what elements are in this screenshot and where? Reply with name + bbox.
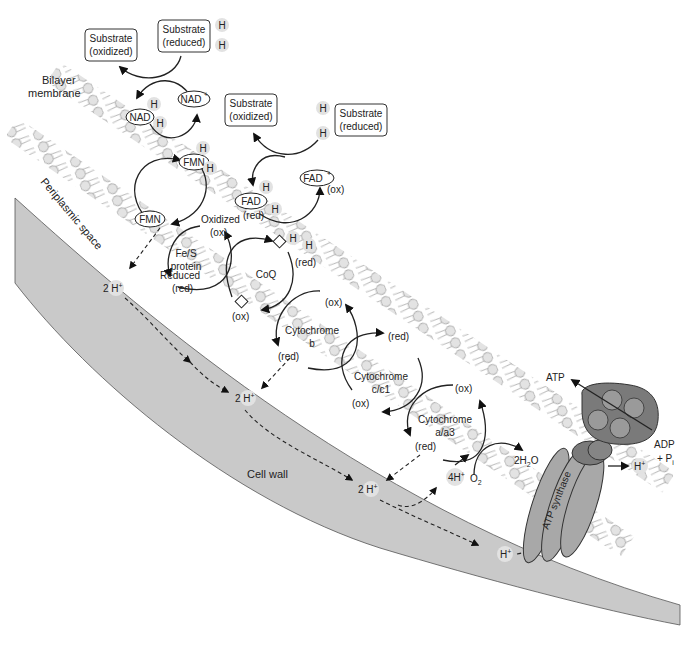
cytb-red-label: (red) <box>278 351 299 362</box>
cyta-red-label: (red) <box>415 441 436 452</box>
cytc-ox-label: (ox) <box>352 398 369 409</box>
svg-text:Substrate: Substrate <box>163 24 206 35</box>
coq-ox-label: (ox) <box>232 311 249 322</box>
hydrogen-fad-sub-2: H <box>316 126 330 140</box>
proton-h-single: H+ <box>497 546 513 562</box>
fad-red-label: (red) <box>243 210 264 221</box>
fad-ox-label: (ox) <box>327 184 344 195</box>
svg-text:Substrate: Substrate <box>90 33 133 44</box>
cyta-ox-label: (ox) <box>455 383 472 394</box>
hydrogen-coq-1: H <box>286 231 300 245</box>
substrate-box-nad-oxidized: Substrate (oxidized) <box>85 29 137 61</box>
arrow-fad-substrate-to-oxidized <box>254 134 318 154</box>
svg-text:FAD: FAD <box>241 196 260 207</box>
svg-text:H: H <box>218 20 225 31</box>
substrate-box-nad-reduced: Substrate (reduced) <box>158 20 210 52</box>
coq-label: CoQ <box>256 269 277 280</box>
substrate-box-fad-oxidized: Substrate (oxidized) <box>225 94 277 126</box>
hydrogen-fad-1: H <box>259 180 273 194</box>
atp-label: ATP <box>546 372 565 383</box>
svg-text:H: H <box>156 118 163 129</box>
fes-oxidized-label: Oxidized <box>201 214 240 225</box>
adp-label: ADP <box>654 439 675 450</box>
svg-text:(reduced): (reduced) <box>340 121 383 132</box>
etc-diagram: Bilayermembrane Periplasmic space Cell w… <box>0 0 695 658</box>
svg-text:H: H <box>262 182 269 193</box>
svg-text:FMN: FMN <box>139 214 161 225</box>
svg-text:FAD: FAD <box>303 173 322 184</box>
carrier-nad: NAD <box>126 109 154 125</box>
proton-arrow-cytb-out <box>262 358 290 388</box>
hydrogen-nad-sub-2: H <box>215 38 229 52</box>
cytb-ox-label: (ox) <box>325 297 342 308</box>
coq-red-label: (red) <box>295 257 316 268</box>
svg-text:H: H <box>218 40 225 51</box>
svg-text:H: H <box>206 163 213 174</box>
svg-text:Substrate: Substrate <box>230 98 273 109</box>
fes-red-label: (red) <box>172 283 193 294</box>
svg-text:FMN: FMN <box>183 157 205 168</box>
svg-text:+: + <box>204 91 208 98</box>
proton-2h-a: 2 H+ <box>103 280 124 296</box>
svg-text:H: H <box>271 204 278 215</box>
substrate-box-fad-reduced: Substrate (reduced) <box>335 104 387 136</box>
carrier-nad-plus: NAD + <box>178 91 210 107</box>
svg-text:+: + <box>327 170 331 177</box>
svg-text:H: H <box>289 233 296 244</box>
carrier-fmn-bottom: FMN <box>135 211 165 227</box>
hydrogen-fad-sub-1: H <box>316 101 330 115</box>
svg-text:(oxidized): (oxidized) <box>89 46 132 57</box>
proton-4h: 4H+ <box>446 468 465 486</box>
hydrogen-coq-2: H <box>302 238 316 252</box>
fes-reduced-label: Reduced <box>160 270 200 281</box>
carrier-fad: FAD <box>235 193 267 209</box>
svg-text:NAD: NAD <box>180 94 201 105</box>
svg-text:H: H <box>305 240 312 251</box>
hydrogen-nad-1: H <box>147 97 161 111</box>
proton-2h-b: 2 H+ <box>235 390 256 406</box>
svg-text:NAD: NAD <box>129 112 150 123</box>
hydrogen-fad-2: H <box>268 202 282 216</box>
svg-text:H: H <box>319 128 326 139</box>
proton-h-out: H+ <box>632 458 648 474</box>
svg-text:H: H <box>319 103 326 114</box>
o2-label: O2 <box>470 473 482 486</box>
svg-text:H: H <box>199 143 206 154</box>
svg-text:(oxidized): (oxidized) <box>229 111 272 122</box>
svg-text:(reduced): (reduced) <box>163 37 206 48</box>
hydrogen-fmn-1: H <box>196 141 210 155</box>
fes-ox-label: (ox) <box>210 227 227 238</box>
proton-arrow-cyta-out <box>387 455 420 480</box>
proton-arrow-fmn-out <box>130 228 160 268</box>
hydrogen-fmn-2: H <box>203 161 217 175</box>
svg-text:H: H <box>150 99 157 110</box>
hydrogen-nad-2: H <box>153 116 167 130</box>
svg-text:Substrate: Substrate <box>340 108 383 119</box>
cytc-red-label: (red) <box>388 331 409 342</box>
proton-2h-c: 2 H+ <box>358 481 379 497</box>
hydrogen-nad-sub-1: H <box>215 18 229 32</box>
cell-wall-label: Cell wall <box>247 468 288 480</box>
membrane-label: Bilayermembrane <box>28 74 81 99</box>
